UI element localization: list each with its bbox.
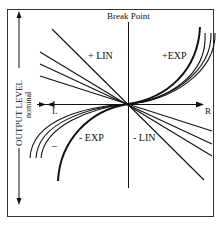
minus-exp-label: - EXP: [79, 132, 104, 143]
break-point-diagram: OUTPUT LEVEL nominal Break Point L R + L…: [0, 0, 221, 228]
plus-lin-label: + LIN: [88, 50, 113, 61]
arrow-right-icon: [196, 102, 204, 108]
plus-exp-label: +EXP: [162, 50, 187, 61]
output-level-label: OUTPUT LEVEL: [14, 80, 24, 146]
minus-lin-label: - LIN: [133, 132, 156, 143]
break-point-title: Break Point: [107, 11, 150, 21]
nominal-label: nominal: [24, 91, 33, 118]
minus-sign-label: –: [51, 140, 58, 151]
right-label: R: [205, 106, 211, 116]
arrow-right-icon: [39, 102, 46, 107]
left-label: L: [52, 106, 58, 116]
frame: [8, 10, 214, 217]
